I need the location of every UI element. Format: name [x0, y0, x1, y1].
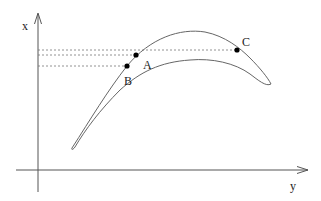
point-b-dot: [124, 63, 129, 68]
horizontal-axis-label: y: [290, 179, 296, 193]
horizontal-axis: [16, 167, 308, 174]
vertical-axis-label: x: [22, 19, 28, 33]
point-c-label: C: [242, 35, 250, 49]
point-c-dot: [234, 47, 239, 52]
vertical-axis: [35, 13, 42, 192]
point-a-label: A: [143, 58, 152, 72]
diagram-canvas: x y A B C: [0, 0, 321, 201]
guide-lines: [38, 50, 237, 66]
point-b-label: B: [124, 74, 132, 88]
point-a-dot: [133, 52, 138, 57]
